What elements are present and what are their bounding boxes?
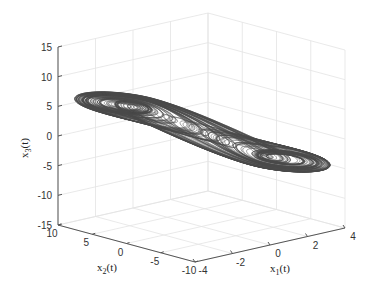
attractor-3d-plot: 151050-5-10-151050-5-10-4-2024 x3(t) x2(… xyxy=(0,0,373,292)
z-tick xyxy=(58,135,62,136)
z-tick xyxy=(58,76,62,77)
z-tick xyxy=(58,105,62,106)
z-tick-label: 5 xyxy=(46,101,52,112)
y-tick xyxy=(92,233,95,234)
z-tick-label: 0 xyxy=(46,131,52,142)
z-tick-label: 10 xyxy=(41,72,53,83)
z-tick xyxy=(58,194,62,195)
y-axis-label: x2(t) xyxy=(97,261,117,276)
z-tick-label: 15 xyxy=(41,42,53,53)
y-tick-label: 10 xyxy=(46,228,58,239)
y-tick-label: -10 xyxy=(182,265,197,276)
z-tick xyxy=(58,165,62,166)
x-axis-label: x1(t) xyxy=(270,262,290,277)
attractor-trajectory xyxy=(75,92,331,172)
z-tick xyxy=(58,46,62,47)
attractor-curve xyxy=(75,92,331,172)
x-tick-label: 4 xyxy=(350,231,356,242)
y-tick-label: 0 xyxy=(118,247,124,258)
z-axis-label: x3(t) xyxy=(18,138,33,158)
grid-line xyxy=(92,200,242,234)
y-tick xyxy=(161,252,164,253)
y-tick-label: 5 xyxy=(83,237,89,248)
grid-line xyxy=(127,210,277,244)
y-tick xyxy=(127,243,130,244)
x-tick-label: 2 xyxy=(313,240,319,251)
x-tick-label: -2 xyxy=(236,257,245,268)
z-tick-label: -5 xyxy=(43,161,52,172)
z-tick-label: -10 xyxy=(38,190,53,201)
x-tick-label: -4 xyxy=(199,265,208,276)
y-tick-label: -5 xyxy=(150,256,159,267)
x-tick-label: 0 xyxy=(275,248,281,259)
grid-line xyxy=(161,219,311,253)
